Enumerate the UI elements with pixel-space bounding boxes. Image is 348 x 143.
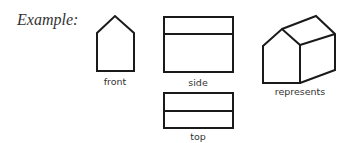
top-view-shape <box>164 93 233 128</box>
orthographic-diagram <box>0 0 348 143</box>
front-view-shape <box>97 16 134 71</box>
isometric-house-shape <box>263 16 335 83</box>
top-label: top <box>190 131 206 142</box>
side-view-shape <box>164 17 233 72</box>
side-label: side <box>188 77 207 88</box>
represents-label: represents <box>275 86 326 97</box>
front-label: front <box>104 76 127 87</box>
